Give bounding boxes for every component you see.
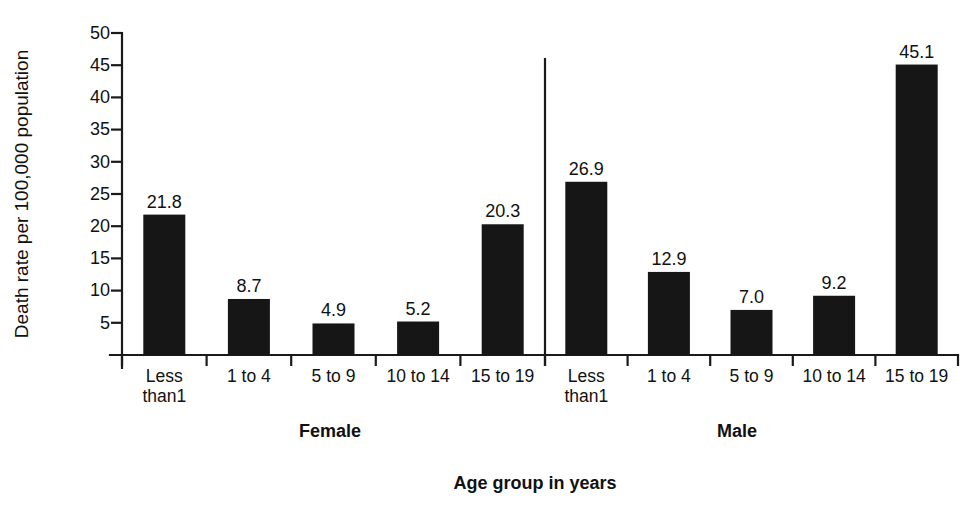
x-axis-category-label: 1 to 4 xyxy=(647,366,691,386)
bar xyxy=(896,65,938,355)
y-axis-tick-label: 5 xyxy=(100,313,110,333)
bar-value-label: 21.8 xyxy=(147,192,182,212)
y-axis-tick-label: 30 xyxy=(90,152,110,172)
bar-value-label: 45.1 xyxy=(899,42,934,62)
bar xyxy=(813,296,855,355)
bar-value-label: 5.2 xyxy=(406,299,431,319)
bar xyxy=(482,224,524,355)
x-axis-category-label: 10 to 14 xyxy=(386,366,450,386)
y-axis-tick-label: 20 xyxy=(90,216,110,236)
x-axis-category-label: Lessthan1 xyxy=(564,366,608,406)
chart-container: Death rate per 100,000 population 510152… xyxy=(0,0,974,505)
bar-value-label: 7.0 xyxy=(739,287,764,307)
x-axis-category-label: 1 to 4 xyxy=(227,366,271,386)
bar xyxy=(143,215,185,355)
bar-chart: Death rate per 100,000 population 510152… xyxy=(0,0,974,505)
bar-value-label: 26.9 xyxy=(569,159,604,179)
y-axis-tick-label: 40 xyxy=(90,87,110,107)
x-axis-title: Age group in years xyxy=(453,473,616,493)
group-label-female: Female xyxy=(299,421,361,441)
y-axis-tick-label: 15 xyxy=(90,248,110,268)
y-axis-tick-label: 10 xyxy=(90,280,110,300)
bar xyxy=(565,182,607,355)
bar-value-label: 4.9 xyxy=(321,300,346,320)
bar xyxy=(313,323,355,355)
x-axis-category-label: 15 to 19 xyxy=(471,366,534,386)
y-axis-tick-label: 25 xyxy=(90,184,110,204)
y-axis-title: Death rate per 100,000 population xyxy=(11,50,32,338)
bar xyxy=(228,299,270,355)
y-axis-tick-label: 45 xyxy=(90,55,110,75)
x-axis-category-label: 5 to 9 xyxy=(730,366,774,386)
y-axis-tick-label: 35 xyxy=(90,119,110,139)
bar xyxy=(648,272,690,355)
bar xyxy=(731,310,773,355)
bar-value-label: 9.2 xyxy=(822,273,847,293)
x-axis-category-label: Lessthan1 xyxy=(142,366,186,406)
bar xyxy=(397,322,439,355)
bar-value-label: 20.3 xyxy=(485,201,520,221)
bar-value-label: 8.7 xyxy=(236,276,261,296)
bar-value-label: 12.9 xyxy=(651,249,686,269)
x-axis-category-label: 15 to 19 xyxy=(885,366,948,386)
x-axis-category-label: 10 to 14 xyxy=(802,366,866,386)
group-label-male: Male xyxy=(717,421,757,441)
y-axis-tick-label: 50 xyxy=(90,23,110,43)
x-axis-category-label: 5 to 9 xyxy=(312,366,356,386)
